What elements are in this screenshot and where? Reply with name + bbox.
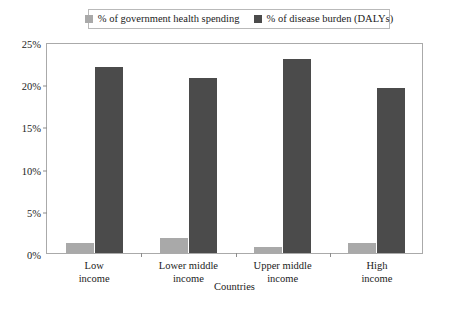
y-axis-tick-label: 25% [22,39,41,50]
x-axis-tick-mark [330,253,331,257]
chart-legend: % of government health spending % of dis… [88,9,390,29]
y-axis-tick-label: 10% [22,165,41,176]
y-axis-tick-label: 20% [22,81,41,92]
bar [283,59,311,253]
plot-frame: 0%5%10%15%20%25% LowincomeLower middlein… [46,43,423,254]
bar-group [141,44,235,253]
y-axis-tick-label: 0% [27,250,41,261]
bar [377,88,405,253]
bar-group [236,44,330,253]
bar [66,243,94,253]
x-axis-tick-mark [141,253,142,257]
bar [189,78,217,253]
bar-group [47,44,141,253]
bar [95,67,123,253]
legend-swatch-series-b [254,15,262,23]
legend-label-series-a: % of government health spending [98,14,240,25]
plot-area: 0%5%10%15%20%25% LowincomeLower middlein… [47,44,422,253]
bar-chart: % of government health spending % of dis… [0,0,469,314]
bar [348,243,376,253]
bar [160,238,188,253]
legend-entry-government-health-spending: % of government health spending [85,14,240,25]
x-axis-tick-mark [236,253,237,257]
legend-label-series-b: % of disease burden (DALYs) [267,14,394,25]
bar-group [330,44,424,253]
legend-swatch-series-a [85,15,93,23]
y-axis-tick-label: 15% [22,123,41,134]
bar [254,247,282,253]
y-axis-tick-label: 5% [27,207,41,218]
x-axis-title: Countries [0,281,469,292]
legend-entry-disease-burden: % of disease burden (DALYs) [254,14,394,25]
